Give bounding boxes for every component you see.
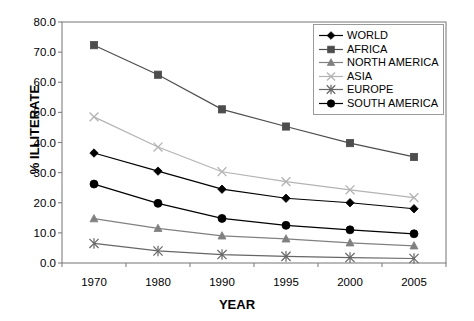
x-axis-tick-label: 1970 xyxy=(81,276,107,288)
legend-item-asia: ASIA xyxy=(318,70,438,84)
bottom-caption xyxy=(20,314,460,321)
series-europe xyxy=(89,238,418,264)
illiteracy-line-chart: % ILLITERATE 0.010.020.030.040.050.060.0… xyxy=(0,0,474,321)
legend-label: ASIA xyxy=(347,70,372,83)
legend-item-south-america: SOUTH AMERICA xyxy=(318,97,438,111)
data-point-square-marker xyxy=(218,106,225,113)
series-asia xyxy=(90,112,419,202)
legend-marker-asterisk-icon xyxy=(318,83,344,96)
data-point-triangle-marker xyxy=(90,215,98,222)
legend-label: AFRICA xyxy=(347,43,387,56)
series-line xyxy=(94,243,414,258)
x-axis-tick-label: 1980 xyxy=(145,276,171,288)
data-point-x-marker xyxy=(90,112,99,121)
legend-marker-square-icon xyxy=(318,43,344,56)
data-point-circle-marker xyxy=(410,230,418,238)
data-point-circle-marker xyxy=(90,180,98,188)
data-point-circle-marker xyxy=(282,221,290,229)
data-point-circle-marker xyxy=(218,214,226,222)
legend-item-north-america: NORTH AMERICA xyxy=(318,56,438,70)
data-point-square-marker xyxy=(328,46,335,53)
data-point-diamond-marker xyxy=(90,149,98,157)
legend-marker-circle-icon xyxy=(318,97,344,110)
legend-marker-diamond-icon xyxy=(318,29,344,42)
data-point-square-marker xyxy=(90,42,97,49)
data-point-circle-marker xyxy=(327,100,334,107)
data-point-square-marker xyxy=(154,71,161,78)
x-axis-tick-label: 1995 xyxy=(273,276,299,288)
data-point-diamond-marker xyxy=(327,32,335,40)
data-point-circle-marker xyxy=(346,226,354,234)
data-point-square-marker xyxy=(346,140,353,147)
x-axis-tick-label: 1990 xyxy=(209,276,235,288)
x-axis-title: YEAR xyxy=(0,297,474,312)
data-point-square-marker xyxy=(282,123,289,130)
series-line xyxy=(94,219,414,246)
data-point-diamond-marker xyxy=(282,194,290,202)
data-point-square-marker xyxy=(410,153,417,160)
series-south-america xyxy=(90,180,418,238)
legend-item-europe: EUROPE xyxy=(318,83,438,97)
series-line xyxy=(94,153,414,209)
legend-item-africa: AFRICA xyxy=(318,43,438,57)
legend-marker-x-icon xyxy=(318,70,344,83)
series-world xyxy=(90,149,418,213)
legend-label: WORLD xyxy=(347,29,388,42)
series-line xyxy=(94,117,414,198)
x-axis-tick-label: 2000 xyxy=(337,276,363,288)
x-axis-tick-label: 2005 xyxy=(401,276,427,288)
data-point-diamond-marker xyxy=(218,185,226,193)
legend-marker-triangle-icon xyxy=(318,56,344,69)
legend-label: NORTH AMERICA xyxy=(347,56,438,69)
data-point-diamond-marker xyxy=(410,205,418,213)
series-north-america xyxy=(90,215,418,249)
data-point-diamond-marker xyxy=(154,167,162,175)
chart-legend: WORLDAFRICANORTH AMERICAASIAEUROPESOUTH … xyxy=(313,24,444,115)
data-point-diamond-marker xyxy=(346,199,354,207)
legend-item-world: WORLD xyxy=(318,29,438,43)
legend-label: SOUTH AMERICA xyxy=(347,97,438,110)
legend-label: EUROPE xyxy=(347,83,393,96)
data-point-x-marker xyxy=(154,143,163,152)
data-point-circle-marker xyxy=(154,199,162,207)
